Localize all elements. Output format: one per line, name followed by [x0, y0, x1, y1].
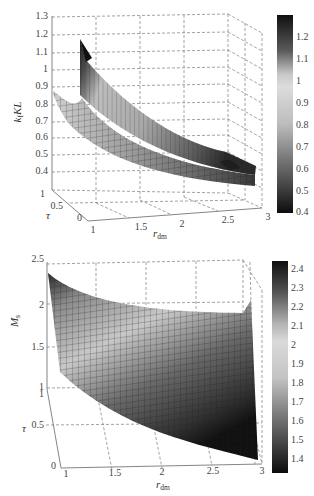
- svg-text:1: 1: [39, 388, 44, 399]
- svg-text:1.5: 1.5: [135, 221, 148, 232]
- svg-text:1.9: 1.9: [291, 358, 304, 369]
- svg-text:1: 1: [40, 188, 45, 199]
- svg-text:0: 0: [51, 460, 56, 471]
- top-rdm-label: rdm: [153, 227, 167, 241]
- svg-text:0.5: 0.5: [51, 200, 64, 211]
- svg-text:0.7: 0.7: [296, 141, 309, 152]
- bottom-tau-ticks: 1 0.5 0: [32, 388, 57, 471]
- svg-text:1.1: 1.1: [296, 53, 309, 64]
- bottom-z-ticks: 2.5 2 1.5 1: [32, 253, 45, 392]
- svg-text:1.4: 1.4: [291, 453, 304, 464]
- svg-text:0.4: 0.4: [296, 206, 309, 217]
- svg-text:1: 1: [91, 224, 96, 235]
- svg-text:1.5: 1.5: [109, 467, 122, 478]
- bottom-colorbar: 2.4 2.3 2.2 2.1 2 1.9 1.8 1.7 1.6 1.5 1.…: [272, 261, 304, 473]
- svg-text:0.7: 0.7: [36, 115, 49, 126]
- svg-text:2.3: 2.3: [291, 282, 304, 293]
- svg-text:0.5: 0.5: [36, 148, 49, 159]
- svg-text:2.5: 2.5: [207, 465, 220, 476]
- svg-text:0: 0: [77, 212, 82, 223]
- svg-text:1.7: 1.7: [291, 396, 304, 407]
- figure: 1.3 1.2 1.1 1 0.9 0.8 0.7 0.6 0.5 0.4 kf…: [0, 0, 314, 496]
- svg-text:0.5: 0.5: [296, 185, 309, 196]
- svg-text:3: 3: [266, 211, 271, 222]
- svg-text:1.3: 1.3: [36, 10, 49, 21]
- svg-text:2: 2: [180, 218, 185, 229]
- svg-text:0.6: 0.6: [36, 131, 49, 142]
- bottom-chart: 2.5 2 1.5 1 Ms 1 0.5 0 τ 1 1.5 2 2.5 3 r…: [8, 253, 304, 492]
- svg-text:0.8: 0.8: [36, 98, 49, 109]
- bottom-tau-label: τ: [22, 422, 27, 434]
- top-rdm-ticks: 1 1.5 2 2.5 3: [91, 211, 271, 235]
- top-surface: [52, 39, 256, 186]
- svg-text:2.1: 2.1: [291, 320, 304, 331]
- svg-text:2: 2: [291, 339, 296, 350]
- svg-text:1.2: 1.2: [296, 31, 309, 42]
- svg-text:0.5: 0.5: [32, 419, 45, 430]
- svg-text:1.8: 1.8: [291, 377, 304, 388]
- svg-text:1.1: 1.1: [36, 46, 49, 57]
- svg-text:0.8: 0.8: [296, 119, 309, 130]
- bottom-surface: [48, 273, 258, 460]
- svg-text:2: 2: [160, 466, 165, 477]
- bottom-tau-axis: [47, 389, 61, 468]
- top-z-ticks: 1.3 1.2 1.1 1 0.9 0.8 0.7 0.6 0.5 0.4: [36, 10, 49, 176]
- svg-text:1.5: 1.5: [32, 341, 45, 352]
- svg-text:1.6: 1.6: [291, 415, 304, 426]
- svg-text:2: 2: [39, 299, 44, 310]
- svg-text:1: 1: [296, 75, 301, 86]
- svg-text:3: 3: [260, 465, 265, 476]
- svg-text:2.4: 2.4: [291, 263, 304, 274]
- top-chart: 1.3 1.2 1.1 1 0.9 0.8 0.7 0.6 0.5 0.4 kf…: [11, 10, 309, 241]
- bottom-rdm-label: rdm: [156, 478, 170, 492]
- svg-text:2.5: 2.5: [32, 253, 45, 264]
- svg-text:1: 1: [43, 63, 48, 74]
- bottom-z-label: Ms: [8, 315, 22, 328]
- top-rdm-axis: [88, 208, 262, 221]
- svg-text:2.2: 2.2: [291, 301, 304, 312]
- svg-text:0.9: 0.9: [296, 97, 309, 108]
- svg-text:1.5: 1.5: [291, 434, 304, 445]
- svg-text:0.6: 0.6: [296, 163, 309, 174]
- top-colorbar: 1.2 1.1 1 0.9 0.8 0.7 0.6 0.5 0.4: [277, 15, 309, 217]
- svg-text:1: 1: [64, 468, 69, 479]
- svg-text:1.2: 1.2: [36, 28, 49, 39]
- svg-text:2.5: 2.5: [222, 214, 235, 225]
- svg-text:0.9: 0.9: [36, 80, 49, 91]
- svg-text:0.4: 0.4: [36, 165, 49, 176]
- top-z-label: kfKL: [11, 102, 25, 123]
